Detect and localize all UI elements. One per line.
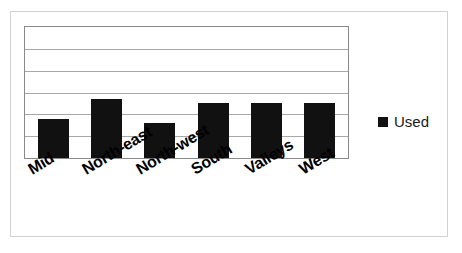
chart-legend: Used — [378, 113, 429, 130]
x-axis-category-labels: MidNorth-eastNorth-westSouthValleysWest — [24, 159, 349, 219]
legend-swatch-used-icon — [378, 117, 388, 127]
bar-chart-figure: MidNorth-eastNorth-westSouthValleysWest … — [0, 0, 462, 253]
legend-label-used: Used — [394, 113, 429, 130]
